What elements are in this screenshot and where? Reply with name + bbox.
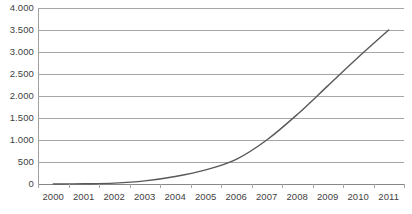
y-axis-tick-label: 3.000 xyxy=(0,47,34,57)
plot-area xyxy=(38,8,404,184)
line-chart: 05001.0001.5002.0002.5003.0003.5004.000 … xyxy=(0,0,412,214)
x-axis-tick xyxy=(374,184,375,188)
x-axis-tick xyxy=(191,184,192,188)
y-axis-tick-label: 1.500 xyxy=(0,113,34,123)
y-axis-tick-label: 2.500 xyxy=(0,69,34,79)
x-axis-tick-label: 2002 xyxy=(99,191,130,202)
x-axis-tick xyxy=(221,184,222,188)
x-axis-tick-label: 2008 xyxy=(282,191,313,202)
x-axis-tick xyxy=(160,184,161,188)
y-axis-tick-label: 3.500 xyxy=(0,25,34,35)
x-axis-tick xyxy=(313,184,314,188)
x-axis-tick xyxy=(69,184,70,188)
x-axis-tick xyxy=(130,184,131,188)
x-axis-tick-label: 2003 xyxy=(130,191,161,202)
y-axis-tick-label: 2.000 xyxy=(0,91,34,101)
x-axis-tick-label: 2000 xyxy=(38,191,69,202)
y-axis-tick-label: 1.000 xyxy=(0,135,34,145)
series-line xyxy=(38,8,404,184)
y-axis-tick-label: 0 xyxy=(0,179,34,189)
x-axis-tick-label: 2006 xyxy=(221,191,252,202)
x-axis-labels: 2000200120022003200420052006200720082009… xyxy=(38,191,404,207)
y-axis-tick-label: 500 xyxy=(0,157,34,167)
x-axis-tick xyxy=(38,184,39,188)
x-axis-tick-label: 2010 xyxy=(343,191,374,202)
x-axis-tick xyxy=(282,184,283,188)
x-axis-tick-label: 2001 xyxy=(69,191,100,202)
x-axis-tick-label: 2004 xyxy=(160,191,191,202)
y-axis-labels: 05001.0001.5002.0002.5003.0003.5004.000 xyxy=(0,0,34,214)
x-axis-tick-label: 2005 xyxy=(191,191,222,202)
x-axis-tick-label: 2007 xyxy=(252,191,283,202)
x-axis-ticks xyxy=(38,184,404,189)
x-axis-tick xyxy=(99,184,100,188)
x-axis-tick xyxy=(404,184,405,188)
x-axis-tick xyxy=(343,184,344,188)
y-axis-tick-label: 4.000 xyxy=(0,3,34,13)
data-line-path xyxy=(53,30,389,184)
x-axis-tick-label: 2011 xyxy=(374,191,405,202)
x-axis-tick-label: 2009 xyxy=(313,191,344,202)
y-axis-line xyxy=(38,8,39,185)
x-axis-tick xyxy=(252,184,253,188)
